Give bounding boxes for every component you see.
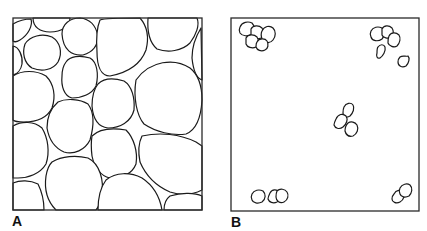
cell-shape xyxy=(45,156,102,210)
cell-shape xyxy=(13,122,48,178)
cell-shape xyxy=(148,18,198,51)
cell-shape xyxy=(47,100,93,153)
panel-b-label: B xyxy=(231,215,241,229)
cell-shape xyxy=(135,62,202,134)
panel-a-label: A xyxy=(12,214,22,228)
cell-shape xyxy=(62,56,98,98)
figure-canvas xyxy=(0,0,427,231)
cell-shape xyxy=(92,79,134,128)
panel-b-cells xyxy=(239,22,412,203)
panel-a-cells xyxy=(13,18,202,210)
cell-shape xyxy=(24,35,61,70)
cell-shape xyxy=(13,181,44,210)
cell-shape xyxy=(164,193,202,210)
cell-shape xyxy=(334,114,347,128)
cell-shape xyxy=(377,45,386,58)
cell-shape xyxy=(251,190,265,203)
cell-shape xyxy=(276,189,288,202)
cell-shape xyxy=(256,39,268,51)
cell-shape xyxy=(13,72,54,123)
cell-shape xyxy=(388,33,400,47)
cell-shape xyxy=(399,184,412,197)
cell-shape xyxy=(398,56,409,67)
cell-shape xyxy=(97,18,148,76)
cell-shape xyxy=(13,46,22,75)
cell-shape xyxy=(13,19,31,42)
cell-shape xyxy=(345,122,358,136)
cell-shape xyxy=(62,18,98,55)
